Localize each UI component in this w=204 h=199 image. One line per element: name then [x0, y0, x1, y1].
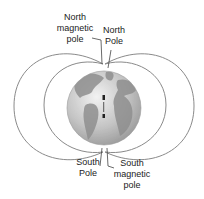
leader-north-pole — [108, 50, 111, 68]
label-south-magnetic-pole: South magnetic pole — [108, 158, 156, 191]
label-north-magnetic-pole: North magnetic pole — [50, 12, 100, 45]
label-north-pole: North Pole — [96, 25, 132, 47]
label-south-pole: South Pole — [70, 157, 106, 179]
earth-globe — [67, 71, 141, 145]
